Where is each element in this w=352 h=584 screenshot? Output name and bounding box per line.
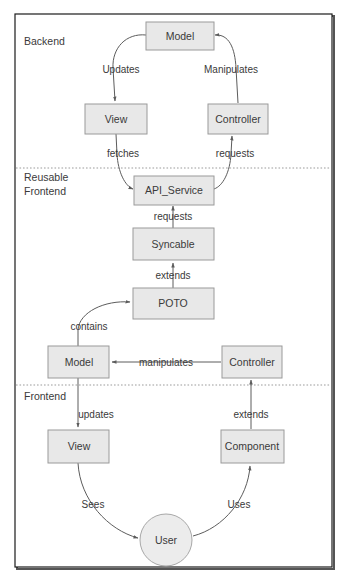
architecture-diagram: Backend Reusable Frontend Frontend Updat… — [0, 0, 352, 584]
node-label-poto: POTO — [158, 297, 188, 309]
node-label-user: User — [155, 534, 178, 546]
node-backend-controller[interactable]: Controller — [208, 104, 268, 134]
edge-label-manipulates-backend: Manipulates — [204, 64, 258, 75]
node-backend-view[interactable]: View — [85, 104, 147, 134]
diagram-canvas: Backend Reusable Frontend Frontend Updat… — [0, 0, 352, 584]
edge-label-updates-frontend: updates — [78, 409, 114, 420]
edge-label-uses: Uses — [228, 499, 251, 510]
node-frontend-component[interactable]: Component — [221, 430, 284, 463]
edge-label-fetches: fetches — [107, 148, 139, 159]
node-frontend-controller[interactable]: Controller — [222, 346, 282, 378]
node-label-frontend-model: Model — [65, 356, 94, 368]
zone-label-frontend: Frontend — [24, 390, 66, 402]
node-frontend-model[interactable]: Model — [48, 346, 109, 378]
edge-label-contains: contains — [70, 321, 107, 332]
edge-label-manipulates-frontend: manipulates — [139, 357, 193, 368]
node-label-backend-view: View — [105, 113, 128, 125]
node-poto[interactable]: POTO — [133, 288, 214, 319]
edge-label-extends-component: extends — [233, 409, 268, 420]
node-backend-model[interactable]: Model — [146, 22, 214, 50]
node-syncable[interactable]: Syncable — [133, 228, 214, 260]
zone-label-reusable-frontend-line2: Frontend — [24, 185, 66, 197]
node-frontend-view[interactable]: View — [48, 430, 109, 463]
edge-label-requests-syncable: requests — [154, 211, 192, 222]
edge-label-requests-controller: requests — [216, 148, 254, 159]
node-label-backend-controller: Controller — [215, 113, 261, 125]
node-label-api-service: API_Service — [145, 184, 203, 196]
edge-label-extends-poto: extends — [155, 270, 190, 281]
zone-label-backend: Backend — [24, 35, 65, 47]
node-label-frontend-view: View — [68, 440, 91, 452]
edge-label-updates-backend: Updates — [102, 64, 139, 75]
node-label-backend-model: Model — [166, 30, 195, 42]
node-api-service[interactable]: API_Service — [134, 176, 214, 205]
node-label-frontend-controller: Controller — [229, 356, 275, 368]
node-label-syncable: Syncable — [151, 238, 194, 250]
zone-label-reusable-frontend-line1: Reusable — [24, 171, 69, 183]
edge-label-sees: Sees — [82, 499, 105, 510]
node-label-frontend-component: Component — [225, 440, 279, 452]
node-user[interactable]: User — [140, 514, 192, 566]
